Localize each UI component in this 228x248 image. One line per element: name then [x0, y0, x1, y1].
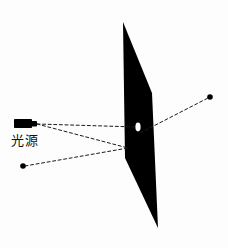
- point-dot-icon-lower-left: [20, 163, 26, 169]
- barrier-polygon: [123, 22, 158, 228]
- flashlight-body: [14, 119, 32, 128]
- ray-group: [25, 98, 208, 166]
- dashed-ray-icon-lamp-to-vertex: [37, 124, 128, 148]
- dashed-ray-icon-lower-left-to-vertex: [25, 148, 128, 166]
- pinhole-icon: [135, 123, 140, 132]
- pinhole-diagram: [0, 0, 228, 248]
- flashlight-icon: [14, 119, 37, 128]
- point-dot-icon-upper-right: [207, 94, 213, 100]
- opaque-screen-icon: [123, 22, 158, 228]
- flashlight-nozzle: [31, 121, 37, 127]
- light-source-label: 光源: [11, 134, 38, 147]
- diagram-canvas: 光源: [0, 0, 228, 248]
- dashed-ray-icon-lamp-to-pinhole: [37, 124, 137, 127]
